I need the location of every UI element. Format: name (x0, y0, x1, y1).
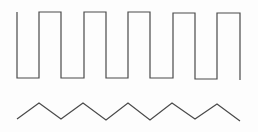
waveform-diagram (0, 0, 258, 132)
square-wave (17, 12, 240, 80)
waveform-svg (0, 0, 258, 132)
triangle-wave (17, 103, 240, 121)
